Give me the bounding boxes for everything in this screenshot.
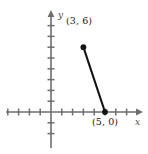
x-axis-label: x	[135, 118, 140, 127]
point-label-5-0: (5, 0)	[92, 117, 118, 127]
data-point-5-0	[102, 109, 108, 115]
point-label-3-6: (3, 6)	[66, 16, 92, 26]
coordinate-plane-figure: y x (3, 6) (5, 0)	[0, 0, 148, 154]
data-point-3-6	[81, 44, 87, 50]
x-axis-arrowhead	[136, 109, 143, 116]
y-axis-arrowhead	[48, 10, 55, 17]
line-segment	[83, 47, 105, 112]
y-axis-label: y	[58, 11, 63, 20]
